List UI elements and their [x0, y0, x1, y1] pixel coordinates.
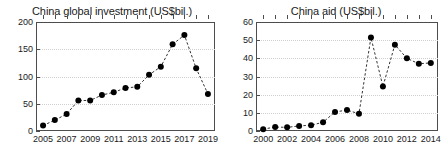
- data-point: [380, 83, 386, 89]
- x-tickmark: [335, 15, 336, 19]
- x-tickmark: [78, 15, 79, 19]
- x-tick-label: 2008: [349, 134, 369, 144]
- data-point: [87, 97, 93, 103]
- x-tick-label: 2009: [80, 134, 100, 144]
- y-tick-label: 30: [243, 72, 253, 82]
- data-point: [111, 89, 117, 95]
- x-tick-label: 2005: [33, 134, 53, 144]
- data-point: [193, 65, 199, 71]
- x-tickmark: [347, 15, 348, 19]
- x-tickmark: [383, 15, 384, 19]
- x-tickmark: [419, 15, 420, 19]
- x-tick-label: 2015: [151, 134, 171, 144]
- x-tickmark: [67, 15, 68, 19]
- data-point: [146, 72, 152, 78]
- x-tickmark: [431, 15, 432, 19]
- data-point: [404, 55, 410, 61]
- x-axis-tick-labels-right: 20002002200420062008201020122014: [256, 134, 438, 148]
- y-tick-label: 150: [18, 44, 33, 54]
- x-tickmark: [263, 15, 264, 19]
- x-tickmark: [126, 15, 127, 19]
- data-point: [428, 60, 434, 66]
- data-point: [260, 126, 266, 132]
- data-point: [356, 111, 362, 117]
- data-point: [134, 84, 140, 90]
- data-point: [40, 123, 46, 129]
- y-tick-label: 20: [243, 90, 253, 100]
- data-point: [272, 124, 278, 130]
- chart-panel-china-global-investment: China global investment (US$bil.) 050100…: [0, 0, 224, 154]
- x-tickmark: [161, 15, 162, 19]
- x-tickmark: [407, 15, 408, 19]
- x-tickmark: [137, 15, 138, 19]
- y-tick-label: 10: [243, 108, 253, 118]
- x-tickmark: [43, 15, 44, 19]
- x-tick-label: 2000: [253, 134, 273, 144]
- series-china-global-investment: [36, 22, 215, 131]
- data-point: [75, 97, 81, 103]
- y-axis-tick-labels-right: 0102030405060: [225, 22, 253, 131]
- plot-area-right: [256, 22, 438, 131]
- data-point: [308, 122, 314, 128]
- x-tick-label: 2017: [174, 134, 194, 144]
- data-point: [296, 123, 302, 129]
- y-tick-label: 200: [18, 17, 33, 27]
- x-tickmark: [90, 15, 91, 19]
- y-tickmark: [256, 131, 260, 132]
- data-point: [332, 109, 338, 115]
- x-tickmark: [287, 15, 288, 19]
- x-tickmark: [114, 15, 115, 19]
- figure-two-line-charts: China global investment (US$bil.) 050100…: [0, 0, 448, 154]
- y-tick-label: 60: [243, 17, 253, 27]
- x-tickmark: [299, 15, 300, 19]
- series-china-aid: [256, 22, 438, 131]
- y-tick-label: 50: [243, 35, 253, 45]
- x-tick-label: 2007: [57, 134, 77, 144]
- data-point: [284, 124, 290, 130]
- y-axis-tick-labels-left: 050100150200: [2, 22, 33, 131]
- x-tickmark: [323, 15, 324, 19]
- x-tickmark: [359, 15, 360, 19]
- x-tickmark: [102, 15, 103, 19]
- x-tick-label: 2013: [127, 134, 147, 144]
- x-tick-label: 2006: [325, 134, 345, 144]
- data-point: [392, 42, 398, 48]
- x-tick-label: 2012: [397, 134, 417, 144]
- x-tickmark: [311, 15, 312, 19]
- x-tickmark: [275, 15, 276, 19]
- data-point: [368, 34, 374, 40]
- y-tick-label: 100: [18, 72, 33, 82]
- plot-area-left: [36, 22, 215, 131]
- x-tickmark: [196, 15, 197, 19]
- data-point: [205, 91, 211, 97]
- x-tickmark: [395, 15, 396, 19]
- data-point: [52, 117, 58, 123]
- x-tickmark: [184, 15, 185, 19]
- data-point: [181, 32, 187, 38]
- data-point: [123, 85, 129, 91]
- x-tickmark: [208, 15, 209, 19]
- series-line: [263, 37, 431, 129]
- x-tick-label: 2004: [301, 134, 321, 144]
- chart-panel-china-aid: China aid (US$bil.) 0102030405060 200020…: [224, 0, 448, 154]
- x-tickmark: [173, 15, 174, 19]
- x-tick-label: 2002: [277, 134, 297, 144]
- x-tickmark: [149, 15, 150, 19]
- x-tickmark: [371, 15, 372, 19]
- x-axis-tick-labels-left: 20052007200920112013201520172019: [36, 134, 215, 148]
- data-point: [170, 41, 176, 47]
- data-point: [320, 119, 326, 125]
- x-tick-label: 2019: [198, 134, 218, 144]
- x-tick-label: 2010: [373, 134, 393, 144]
- x-tick-label: 2014: [421, 134, 441, 144]
- y-tick-label: 50: [23, 99, 33, 109]
- data-point: [344, 107, 350, 113]
- x-tickmark: [55, 15, 56, 19]
- chart-title-left: China global investment (US$bil.): [0, 5, 224, 17]
- y-tick-label: 40: [243, 53, 253, 63]
- data-point: [158, 64, 164, 70]
- y-tickmark: [36, 131, 40, 132]
- data-point: [99, 92, 105, 98]
- data-point: [416, 61, 422, 67]
- data-point: [64, 111, 70, 117]
